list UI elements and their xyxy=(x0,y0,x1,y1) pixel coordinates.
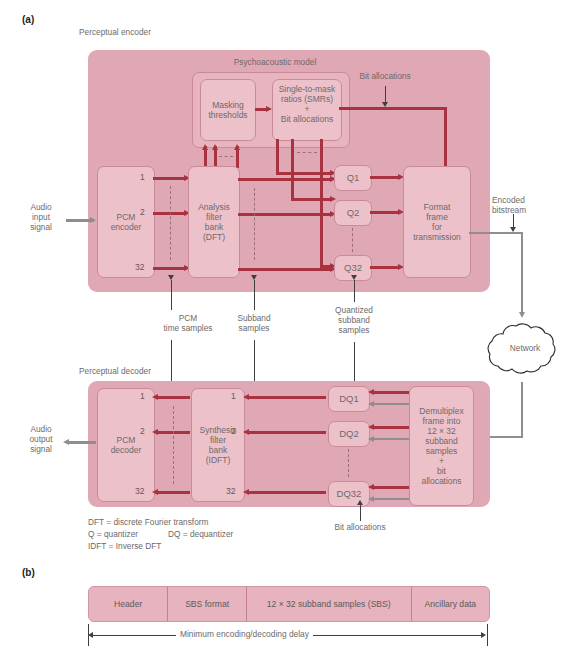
decoder-sfb-channel-2: 2 xyxy=(231,426,236,436)
arrow-sfb-to-pcm-1 xyxy=(152,394,158,400)
connector-network-to-demux-v xyxy=(521,382,523,438)
demultiplex-box: Demultiplex frame into 12 × 32 subband s… xyxy=(409,386,474,506)
pointer-line-decoder-bit-allocations xyxy=(360,505,361,521)
connector-dq2-to-sfb xyxy=(248,431,326,434)
pcm-decoder-box: PCM decoder xyxy=(97,388,155,502)
delay-tick-right xyxy=(487,624,488,646)
encoder-channel-2: 2 xyxy=(140,207,145,217)
arrow-format-to-network xyxy=(519,312,525,318)
ellipsis-quantizers xyxy=(352,228,353,252)
arrow-sfb-to-pcm-32 xyxy=(152,489,158,495)
smr-line4: Bit allocations xyxy=(273,114,341,124)
legend-line-3: IDFT = Inverse DFT xyxy=(88,541,161,551)
ellipsis-pcm-to-fb xyxy=(170,186,171,260)
connector-fb-to-q32 xyxy=(238,268,332,271)
bus-smr-drop-2 xyxy=(291,139,294,201)
connector-fb-to-q2 xyxy=(238,213,332,216)
perceptual-encoder-title: Perceptual encoder xyxy=(79,27,151,37)
audio-output-signal-label: Audio output signal xyxy=(18,425,64,455)
pointer-arrow-quantized-up xyxy=(351,275,357,280)
analysis-filter-bank-box: Analysis filter bank (DFT) xyxy=(188,166,240,278)
dequantizer-dq1-label: DQ1 xyxy=(339,393,359,404)
connector-pcm-to-fb-1 xyxy=(153,177,187,180)
encoder-channel-1: 1 xyxy=(140,172,145,182)
delay-arrow-left xyxy=(88,632,93,638)
ellipsis-subband-samples xyxy=(254,188,255,260)
connector-dq1-to-sfb xyxy=(248,396,326,399)
decoder-bit-allocations-label: Bit allocations xyxy=(320,523,400,533)
arrow-demux-to-dq1 xyxy=(368,389,374,395)
pointer-arrow-decoder-bit-allocations xyxy=(357,500,363,505)
decoder-channel-2: 2 xyxy=(140,426,145,436)
arrow-demux-to-dq32 xyxy=(368,484,374,490)
pointer-arrow-pcm-time-samples-up xyxy=(168,275,174,280)
decoder-sfb-channel-1: 1 xyxy=(231,391,236,401)
arrow-bitalloc-to-dq2 xyxy=(368,436,374,442)
arrow-demux-to-dq2 xyxy=(368,424,374,430)
smr-line2: ratios (SMRs) xyxy=(273,94,341,104)
bus-smr-leg-q1 xyxy=(276,172,332,175)
decoder-channel-32: 32 xyxy=(135,486,144,496)
pcm-time-samples-label: PCM time samples xyxy=(150,314,226,334)
connector-fb-to-q1 xyxy=(238,178,332,181)
connector-format-to-network-v xyxy=(521,232,523,315)
quantizer-q2-label: Q2 xyxy=(347,207,360,218)
bus-smr-drop-32 xyxy=(320,139,323,268)
arrow-bitalloc-to-dq1 xyxy=(368,401,374,407)
dequantizer-dq32-label: DQ32 xyxy=(337,488,362,499)
demultiplex-label: Demultiplex frame into 12 × 32 subband s… xyxy=(419,406,463,486)
subband-samples-label: Subband samples xyxy=(218,314,290,334)
smr-line3: + xyxy=(273,104,341,114)
bus-smr-to-format-horizontal xyxy=(339,107,447,110)
pcm-encoder-box: PCM encoder xyxy=(97,166,155,278)
arrow-dq1-to-sfb xyxy=(243,394,249,400)
legend-line-2-left: Q = quantizer xyxy=(88,529,138,539)
analysis-filter-bank-label: Analysis filter bank (DFT) xyxy=(198,202,230,242)
connector-demux-to-dq32 xyxy=(373,486,409,489)
bus-smr-drop-1 xyxy=(276,139,279,175)
quantizer-q32-label: Q32 xyxy=(344,262,362,273)
connector-sfb-to-pcm-32 xyxy=(157,491,190,494)
pointer-line-pcm-time-samples-up xyxy=(171,280,172,310)
connector-pcm-to-fb-32 xyxy=(153,267,187,270)
pointer-arrow-subband-samples-up xyxy=(251,275,257,280)
arrow-audio-input xyxy=(90,217,96,223)
encoder-channel-32: 32 xyxy=(135,262,144,272)
pcm-decoder-label: PCM decoder xyxy=(111,435,142,455)
connector-bitalloc-to-dq2 xyxy=(373,438,409,441)
connector-demux-to-dq2 xyxy=(373,426,409,429)
decoder-sfb-channel-32: 32 xyxy=(226,486,235,496)
connector-audio-output xyxy=(68,441,96,444)
pointer-line-quantized-up xyxy=(354,280,355,302)
pointer-line-bit-allocations xyxy=(385,86,386,103)
frame-cell-subband-samples: 12 × 32 subband samples (SBS) xyxy=(247,587,412,621)
dequantizer-dq2-box: DQ2 xyxy=(328,421,370,447)
connector-sfb-to-pcm-1 xyxy=(157,396,190,399)
ellipsis-sfb-to-pcm xyxy=(173,406,174,484)
connector-bitalloc-to-dq32 xyxy=(373,498,409,501)
arrow-dq2-to-sfb xyxy=(243,429,249,435)
ellipsis-fb-to-masking xyxy=(219,156,233,157)
psychoacoustic-model-title: Psychoacoustic model xyxy=(190,57,360,67)
connector-format-to-network-h xyxy=(469,232,523,234)
arrow-fb-to-masking-2 xyxy=(212,144,218,150)
connector-q32-to-format xyxy=(370,266,400,269)
frame-cell-sbs-format: SBS format xyxy=(168,587,246,621)
smr-box: Single-to-mask ratios (SMRs) + Bit alloc… xyxy=(272,79,342,141)
arrow-fb-to-masking-3 xyxy=(234,144,240,150)
delay-arrow-right xyxy=(481,632,486,638)
dequantizer-dq1-box: DQ1 xyxy=(328,386,370,412)
dequantizer-dq2-label: DQ2 xyxy=(339,428,359,439)
perceptual-decoder-title: Perceptual decoder xyxy=(79,366,151,376)
arrow-dq32-to-sfb xyxy=(243,489,249,495)
arrow-sfb-to-pcm-2 xyxy=(152,429,158,435)
quantizer-q2-box: Q2 xyxy=(334,200,372,226)
arrow-bitalloc-to-dq32 xyxy=(368,496,374,502)
connector-demux-to-dq1 xyxy=(373,391,409,394)
delay-label: Minimum encoding/decoding delay xyxy=(176,629,313,639)
frame-cell-ancillary-data: Ancillary data xyxy=(412,587,489,621)
arrow-audio-output xyxy=(63,439,69,445)
connector-q2-to-format xyxy=(370,211,400,214)
bus-smr-leg-q2 xyxy=(291,198,332,201)
legend-line-1: DFT = discrete Fourier transform xyxy=(88,517,208,527)
